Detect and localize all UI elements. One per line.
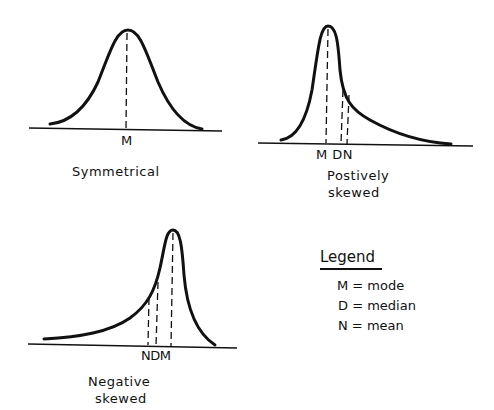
positive-skew-mode-dashed-line <box>326 29 328 143</box>
legend-underline <box>320 268 382 270</box>
negative-skew-title-line1: Negative <box>88 375 150 388</box>
negative-skew-title-line2: skewed <box>95 392 147 405</box>
legend-title: Legend <box>320 250 375 265</box>
negative-skew-panel <box>28 230 237 348</box>
positive-skew-panel <box>258 26 473 146</box>
positive-skew-title-line2: skewed <box>328 186 380 199</box>
symmetrical-panel <box>29 30 222 131</box>
negative-skew-mode-dashed-line <box>171 233 173 346</box>
negative-skew-median-dashed-line <box>156 282 158 346</box>
symmetrical-mode-dashed-line <box>126 33 127 128</box>
positive-skew-curve <box>281 26 451 144</box>
positive-skew-title-line1: Postively <box>327 169 389 182</box>
positive-skew-median-dashed-line <box>341 90 343 144</box>
symmetrical-title: Symmetrical <box>72 165 160 178</box>
symmetrical-baseline <box>29 128 222 131</box>
legend-item-median: D = median <box>338 299 416 312</box>
legend-item-mean: N = mean <box>338 319 404 332</box>
distribution-diagram <box>0 0 494 410</box>
symmetrical-marker-labels: M <box>121 134 132 147</box>
negative-skew-baseline <box>28 344 237 348</box>
legend-item-mode: M = mode <box>337 279 404 292</box>
negative-skew-curve <box>44 230 215 345</box>
negative-skew-mean-dashed-line <box>148 298 149 345</box>
positive-skew-marker-labels: M DN <box>316 148 353 161</box>
negative-skew-marker-labels: NDM <box>141 349 170 362</box>
